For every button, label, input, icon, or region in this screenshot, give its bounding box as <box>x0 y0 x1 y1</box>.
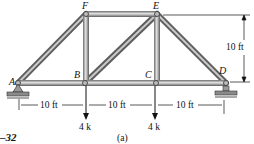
load-arrow-b <box>83 86 89 120</box>
figure-part-label: (a) <box>117 133 128 144</box>
joint-label-d: D <box>218 65 227 76</box>
dim-label-bc: 10 ft <box>108 100 126 110</box>
bottom-chord <box>18 80 226 86</box>
diagonal-members <box>18 14 226 83</box>
joint-label-a: A <box>8 76 16 87</box>
dim-label-cd: 10 ft <box>176 100 194 110</box>
roller-support-d <box>215 86 237 97</box>
joint-label-e: E <box>152 0 159 11</box>
joint-label-f: F <box>81 0 89 11</box>
top-chord <box>86 11 157 17</box>
joint-label-c: C <box>145 69 152 80</box>
joint-label-b: B <box>74 69 80 80</box>
truss-diagram: A B C D E F 4 k 4 k 10 ft 10 ft 10 ft 10… <box>0 0 254 144</box>
dim-label-ab: 10 ft <box>40 100 58 110</box>
figure-number: –32 <box>0 131 17 143</box>
load-label-c: 4 k <box>148 122 160 132</box>
load-label-b: 4 k <box>79 122 91 132</box>
dim-label-height: 10 ft <box>226 42 244 52</box>
load-arrow-c <box>152 86 158 120</box>
